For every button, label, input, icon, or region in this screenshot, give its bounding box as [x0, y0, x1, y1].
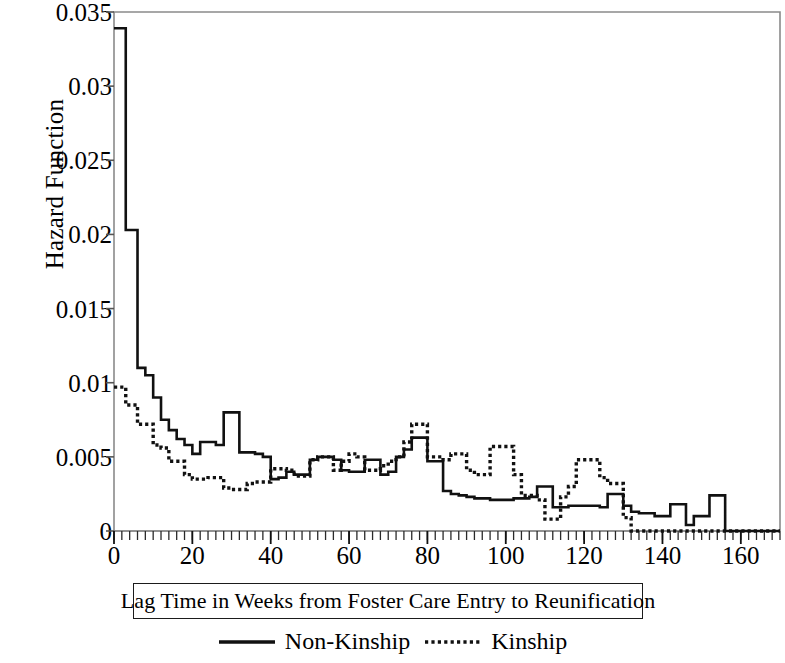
- legend-swatch-dotted-icon: [424, 636, 482, 648]
- legend-label-kinship: Kinship: [491, 628, 567, 655]
- series-kinship: [114, 387, 780, 531]
- x-tick-label: 160: [722, 543, 760, 568]
- chart-legend: Non-Kinship Kinship: [0, 628, 785, 655]
- x-tick-label: 60: [337, 543, 362, 568]
- x-tick-label: 20: [180, 543, 205, 568]
- plot-frame: [114, 12, 780, 531]
- series-non-kinship: [114, 28, 780, 531]
- x-tick-label: 140: [644, 543, 682, 568]
- x-tick-label: 40: [258, 543, 283, 568]
- x-tick-label: 0: [108, 543, 121, 568]
- legend-item-non-kinship: Non-Kinship: [218, 628, 410, 655]
- legend-swatch-solid-icon: [218, 636, 276, 648]
- legend-label-non-kinship: Non-Kinship: [285, 628, 410, 655]
- y-axis-ticks: [106, 12, 114, 531]
- x-axis-title: Lag Time in Weeks from Foster Care Entry…: [121, 588, 656, 614]
- x-tick-label: 80: [415, 543, 440, 568]
- x-axis-tick-labels: 020406080100120140160: [0, 543, 785, 577]
- x-tick-label: 120: [565, 543, 603, 568]
- x-tick-label: 100: [487, 543, 525, 568]
- x-axis-title-box: Lag Time in Weeks from Foster Care Entry…: [133, 583, 643, 619]
- hazard-function-chart: Hazard Function 00.0050.010.0150.020.025…: [0, 0, 785, 663]
- legend-item-kinship: Kinship: [424, 628, 567, 655]
